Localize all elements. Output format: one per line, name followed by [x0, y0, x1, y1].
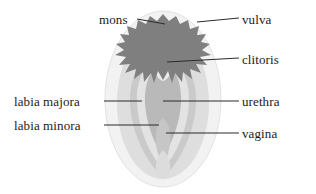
label-labia-minora: labia minora: [14, 119, 81, 132]
leader-line-vulva: [197, 18, 239, 22]
label-mons: mons: [99, 13, 128, 26]
anatomy-diagram: mons labia majora labia minora vulva cli…: [0, 0, 316, 194]
label-urethra: urethra: [242, 95, 280, 108]
label-vagina: vagina: [242, 127, 277, 140]
label-vulva: vulva: [242, 13, 271, 26]
label-clitoris: clitoris: [242, 53, 279, 66]
label-labia-majora: labia majora: [14, 95, 80, 108]
